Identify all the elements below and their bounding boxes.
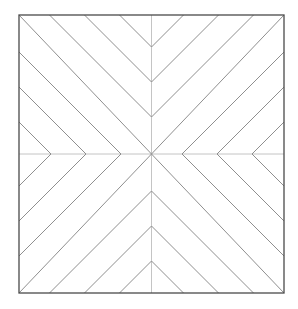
- chevron-pattern-figure: [0, 0, 298, 309]
- pattern-line: [252, 154, 284, 186]
- pattern-line: [152, 15, 219, 82]
- pattern-line: [120, 261, 152, 293]
- pattern-line: [120, 15, 152, 47]
- pattern-line: [19, 122, 51, 154]
- pattern-line: [217, 154, 284, 221]
- pattern-line: [19, 87, 86, 154]
- pattern-line: [85, 226, 152, 293]
- pattern-line: [85, 15, 152, 82]
- pattern-line: [152, 15, 184, 47]
- pattern-line: [152, 261, 184, 293]
- pattern-line: [19, 154, 86, 221]
- pattern-line: [217, 87, 284, 154]
- pattern-line: [152, 226, 219, 293]
- pattern-line: [19, 154, 51, 186]
- figure-page: [0, 0, 298, 309]
- pattern-line: [252, 122, 284, 154]
